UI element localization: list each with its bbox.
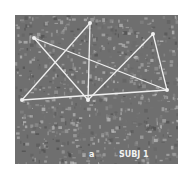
subject-label: SUBJ 1 [119,151,149,159]
scanpath-segment [22,90,167,100]
micrograph-panel: a SUBJ 1 [15,15,178,164]
fixation-point [86,98,90,102]
fixation-point [88,21,92,25]
fixation-point [151,32,155,36]
fixation-point [20,98,24,102]
fixation-point [165,88,169,92]
scanpath-segment [88,34,153,100]
scanpath-segment [34,38,88,100]
panel-label: a [89,151,94,159]
scanpath-segment [153,34,167,90]
fixation-point [32,36,36,40]
scanpath-overlay [15,15,178,164]
scanpath-segment [88,23,90,100]
scanpath-segment [22,23,90,100]
